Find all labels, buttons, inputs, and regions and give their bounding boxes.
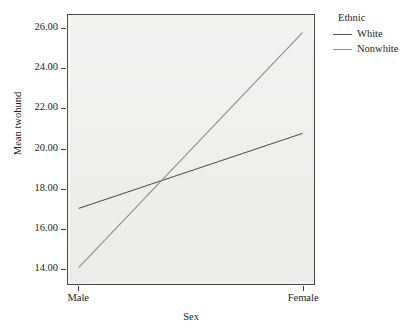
legend: Ethnic WhiteNonwhite — [333, 12, 412, 57]
y-tick-label: 26.00 — [0, 21, 58, 32]
y-tick-mark — [61, 28, 66, 29]
y-tick-mark — [61, 189, 66, 190]
y-tick-mark — [61, 108, 66, 109]
profile-plot-figure: 14.0016.0018.0020.0022.0024.0026.00 Male… — [0, 0, 412, 333]
y-tick-label: 18.00 — [0, 182, 58, 193]
x-axis-title: Sex — [67, 311, 315, 322]
x-tick-mark — [303, 286, 304, 291]
y-tick-mark — [61, 229, 66, 230]
legend-entry-nonwhite: Nonwhite — [333, 42, 412, 57]
legend-entries: WhiteNonwhite — [333, 27, 412, 57]
series-lines — [68, 15, 314, 284]
x-tick-label: Female — [288, 292, 319, 303]
y-tick-label: 20.00 — [0, 142, 58, 153]
y-tick-mark — [61, 149, 66, 150]
legend-entry-label: White — [357, 29, 383, 40]
y-tick-label: 24.00 — [0, 61, 58, 72]
legend-entry-label: Nonwhite — [357, 44, 398, 55]
y-axis-title: Mean twohund — [12, 64, 23, 184]
series-line-nonwhite — [79, 33, 302, 267]
x-tick-mark — [78, 286, 79, 291]
y-tick-label: 16.00 — [0, 222, 58, 233]
plot-area — [67, 14, 315, 285]
legend-title: Ethnic — [338, 12, 412, 23]
y-tick-mark — [61, 68, 66, 69]
y-tick-label: 22.00 — [0, 101, 58, 112]
y-tick-label: 14.00 — [0, 262, 58, 273]
x-tick-label: Male — [67, 292, 89, 303]
legend-swatch-icon — [333, 34, 352, 36]
legend-swatch-icon — [333, 49, 352, 51]
series-line-white — [79, 134, 302, 209]
legend-entry-white: White — [333, 27, 412, 42]
y-tick-mark — [61, 269, 66, 270]
